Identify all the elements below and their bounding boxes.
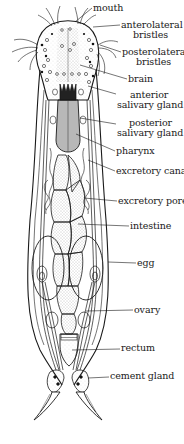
label-posterolateral-bristles: posterolateral bristles xyxy=(122,47,184,67)
label-anterior-salivary-gland: anterior salivary gland xyxy=(117,90,183,110)
label-mouth: mouth xyxy=(93,3,123,13)
label-brain: brain xyxy=(128,74,153,84)
label-posterior-salivary-gland: posterior salivary gland xyxy=(117,118,183,138)
toes xyxy=(34,392,102,420)
label-excretory-pore: excretory pore xyxy=(118,196,184,206)
label-rectum: rectum xyxy=(121,343,155,353)
label-egg: egg xyxy=(137,258,155,268)
label-excretory-canal: excretory canal xyxy=(116,166,184,176)
label-anterolateral-bristles: anterolateral bristles xyxy=(121,20,183,40)
label-pharynx: pharynx xyxy=(116,146,155,156)
label-intestine: intestine xyxy=(130,221,171,231)
cement-glands xyxy=(47,370,89,392)
rotifer-diagram: mouth anterolateral bristles posterolate… xyxy=(0,0,184,444)
label-cement-gland: cement gland xyxy=(110,371,174,381)
label-ovary: ovary xyxy=(134,305,160,315)
